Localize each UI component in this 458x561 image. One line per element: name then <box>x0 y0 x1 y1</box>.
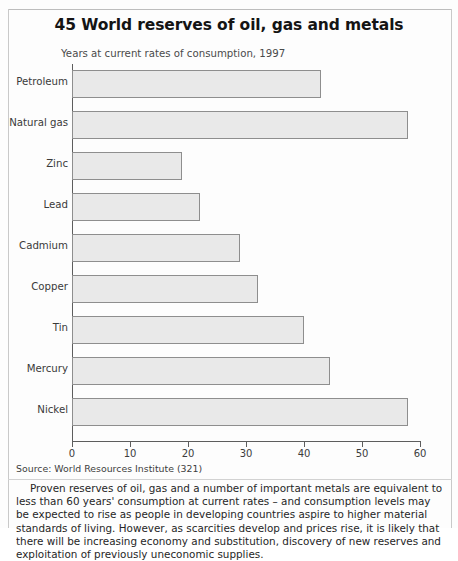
bar-lead <box>72 193 200 221</box>
bar-petroleum <box>72 70 321 98</box>
body-paragraph: Proven reserves of oil, gas and a number… <box>16 482 446 561</box>
category-label-zinc: Zinc <box>46 158 68 169</box>
bar-nickel <box>72 398 408 426</box>
x-axis-tick <box>72 442 73 447</box>
bar-row <box>72 228 420 269</box>
bar-row <box>72 310 420 351</box>
x-axis-tick <box>188 442 189 447</box>
x-axis-tick-label: 20 <box>182 448 195 459</box>
category-label-petroleum: Petroleum <box>16 76 68 87</box>
x-axis-tick-label: 0 <box>69 448 75 459</box>
bar-tin <box>72 316 304 344</box>
category-label-wrap: Lead <box>0 187 68 228</box>
category-label-wrap: Zinc <box>0 146 68 187</box>
category-label-wrap: Petroleum <box>0 64 68 105</box>
category-label-copper: Copper <box>31 281 68 292</box>
category-label-wrap: Cadmium <box>0 228 68 269</box>
bar-zinc <box>72 152 182 180</box>
source-note: Source: World Resources Institute (321) <box>16 463 202 474</box>
bar-cadmium <box>72 234 240 262</box>
bar-natural-gas <box>72 111 408 139</box>
category-label-wrap: Natural gas <box>0 105 68 146</box>
category-label-lead: Lead <box>44 199 68 210</box>
category-label-cadmium: Cadmium <box>19 240 68 251</box>
x-axis-tick <box>420 442 421 447</box>
body-paragraph-text: Proven reserves of oil, gas and a number… <box>16 482 446 561</box>
x-axis-tick <box>362 442 363 447</box>
x-axis-tick <box>246 442 247 447</box>
bar-mercury <box>72 357 330 385</box>
bar-row <box>72 392 420 433</box>
x-axis-tick-label: 10 <box>124 448 137 459</box>
x-axis-tick-label: 50 <box>356 448 369 459</box>
x-axis-tick <box>304 442 305 447</box>
category-label-tin: Tin <box>53 322 68 333</box>
category-label-mercury: Mercury <box>27 363 68 374</box>
x-axis-tick-label: 60 <box>414 448 427 459</box>
category-label-wrap: Mercury <box>0 351 68 392</box>
bar-chart: 0102030405060 PetroleumNatural gasZincLe… <box>0 0 458 460</box>
footer-divider <box>8 479 452 480</box>
bar-row <box>72 146 420 187</box>
bar-copper <box>72 275 258 303</box>
bar-row <box>72 105 420 146</box>
x-axis-tick-label: 30 <box>240 448 253 459</box>
x-axis-tick-label: 40 <box>298 448 311 459</box>
bar-row <box>72 351 420 392</box>
bar-row <box>72 269 420 310</box>
category-label-wrap: Nickel <box>0 392 68 433</box>
bar-row <box>72 64 420 105</box>
x-axis-tick <box>130 442 131 447</box>
bar-row <box>72 187 420 228</box>
category-label-wrap: Copper <box>0 269 68 310</box>
category-label-nickel: Nickel <box>37 404 68 415</box>
category-label-natural-gas: Natural gas <box>9 117 68 128</box>
category-label-wrap: Tin <box>0 310 68 351</box>
